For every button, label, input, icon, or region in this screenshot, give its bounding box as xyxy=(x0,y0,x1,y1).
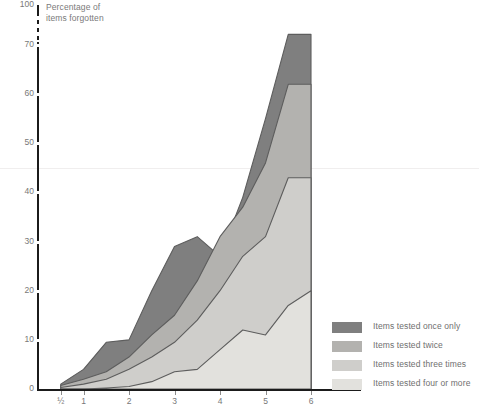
y-axis-tick xyxy=(37,191,39,194)
x-axis-line xyxy=(37,389,361,391)
x-axis-tick-label: 3 xyxy=(165,396,185,406)
y-axis-tick-label: 50 xyxy=(4,137,34,147)
x-axis-tick xyxy=(311,391,312,395)
x-axis-tick-label: ½ xyxy=(51,396,71,406)
x-axis-tick-label: 2 xyxy=(119,396,139,406)
y-axis-tick-label: 60 xyxy=(4,88,34,98)
x-axis-tick xyxy=(175,391,176,395)
y-axis-tick-label: 100 xyxy=(4,0,34,9)
x-axis-tick xyxy=(220,391,221,395)
x-axis-tick xyxy=(61,391,62,395)
x-axis-tick-label: 1 xyxy=(74,396,94,406)
y-axis-tick xyxy=(37,339,39,342)
chart-figure: Percentage of items forgotten 0102030405… xyxy=(0,0,479,417)
y-axis-tick-label: 20 xyxy=(4,285,34,295)
y-axis-tick-label: 40 xyxy=(4,186,34,196)
legend-label: Items tested four or more xyxy=(373,378,470,388)
x-axis-tick-label: 4 xyxy=(210,396,230,406)
legend-swatch xyxy=(332,360,362,371)
x-axis-tick-label: 5 xyxy=(256,396,276,406)
y-axis-break xyxy=(37,12,39,42)
y-axis-tick xyxy=(37,44,39,47)
x-axis-tick xyxy=(129,391,130,395)
y-axis-labels: 010203040506070100 xyxy=(0,0,34,417)
legend-label: Items tested twice xyxy=(373,340,443,350)
x-axis-tick xyxy=(84,391,85,395)
y-axis-tick xyxy=(37,142,39,145)
legend-item: Items tested twice xyxy=(332,339,479,358)
y-axis-line xyxy=(37,5,39,391)
legend-label: Items tested three times xyxy=(373,359,466,369)
x-axis-tick-label: 6 xyxy=(301,396,321,406)
y-axis-tick xyxy=(37,93,39,96)
y-axis-tick-label: 10 xyxy=(4,334,34,344)
legend-label: Items tested once only xyxy=(373,321,460,331)
y-axis-tick-label: 30 xyxy=(4,236,34,246)
y-axis-tick-label: 70 xyxy=(4,39,34,49)
legend-swatch xyxy=(332,341,362,352)
legend-item: Items tested once only xyxy=(332,320,479,339)
legend-item: Items tested four or more xyxy=(332,377,479,396)
x-axis-tick xyxy=(266,391,267,395)
y-axis-tick xyxy=(37,290,39,293)
legend-item: Items tested three times xyxy=(332,358,479,377)
legend-swatch xyxy=(332,379,362,390)
y-axis-tick-label: 0 xyxy=(4,383,34,393)
chart-legend: Items tested once onlyItems tested twice… xyxy=(332,320,479,396)
y-axis-tick xyxy=(37,241,39,244)
legend-swatch xyxy=(332,322,362,333)
